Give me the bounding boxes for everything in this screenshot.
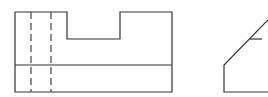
front-view: [15, 12, 172, 92]
side-view-outline: [224, 20, 268, 92]
side-view: [224, 20, 268, 92]
front-view-outline: [15, 12, 172, 92]
technical-drawing: [0, 0, 268, 97]
